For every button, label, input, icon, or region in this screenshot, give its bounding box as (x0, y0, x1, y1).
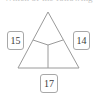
partition-arm-right (48, 40, 63, 45)
label-bottom-value-box: 17 (40, 74, 58, 93)
geometry-figure: Which of the following 15 14 17 (0, 0, 97, 95)
label-left-value-box: 15 (7, 31, 24, 50)
partition-arm-left (33, 40, 48, 45)
label-right-value-box: 14 (73, 31, 90, 50)
